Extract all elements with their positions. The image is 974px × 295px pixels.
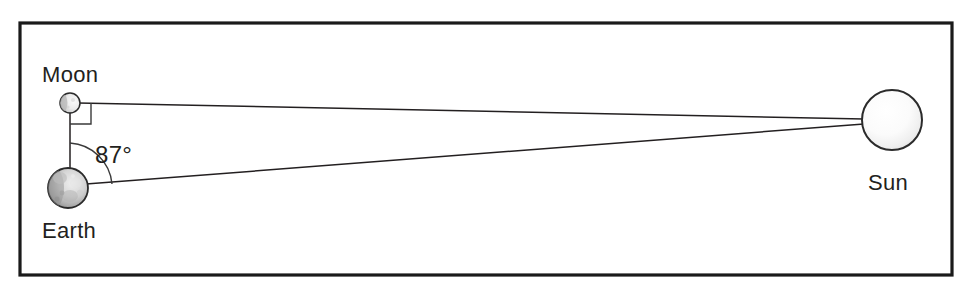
sun-label: Sun xyxy=(868,170,908,195)
earth-body xyxy=(44,168,88,208)
moon-label: Moon xyxy=(42,62,98,87)
moon-to-sun-line xyxy=(78,103,864,119)
sun-body xyxy=(862,90,922,150)
earth-label: Earth xyxy=(42,218,96,243)
astronomy-diagram-canvas: Moon Earth Sun 87° xyxy=(0,0,974,295)
angle-value-label: 87° xyxy=(95,141,132,168)
diagram-svg: Moon Earth Sun 87° xyxy=(0,0,974,295)
outer-border xyxy=(20,23,952,275)
earth-to-sun-line xyxy=(86,124,864,184)
moon-body xyxy=(57,93,81,113)
